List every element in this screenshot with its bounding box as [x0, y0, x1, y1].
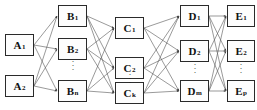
node-label-subscript: 1 [75, 15, 79, 22]
edge-b2-to-ck [87, 49, 114, 93]
node-label-base: A [14, 40, 22, 51]
node-label-base: C [124, 23, 132, 34]
edge-ck-to-d2 [144, 51, 179, 93]
node-ep: Ep [227, 80, 255, 102]
node-label-base: E [235, 11, 243, 22]
node-a1: A1 [5, 34, 34, 56]
edge-a2-to-b2 [34, 49, 57, 86]
edge-a1-to-b2 [34, 45, 57, 49]
node-label-subscript: 2 [22, 85, 26, 92]
edge-bn-to-ck [87, 91, 114, 93]
node-b1: B1 [58, 5, 87, 27]
node-label-subscript: 2 [75, 48, 79, 55]
edge-c2-to-d2 [144, 51, 179, 68]
node-label-base: B [67, 11, 75, 22]
edge-a2-to-b1 [34, 16, 57, 86]
edge-ck-to-dm [144, 91, 179, 93]
node-label-subscript: 1 [197, 15, 201, 22]
edge-a1-to-b1 [34, 16, 57, 45]
edge-c1-to-d1 [144, 16, 179, 28]
node-label-base: D [187, 86, 195, 97]
ellipsis-dot: · [123, 80, 137, 84]
network-diagram: A1A2B1B2Bn···C1C2Ck···D1D2Dm···E1E2Ep··· [0, 0, 257, 110]
node-e1: E1 [227, 5, 255, 27]
edge-c2-to-dm [144, 68, 179, 91]
node-label-base: C [123, 88, 131, 99]
ellipsis-dot: · [188, 70, 202, 74]
ellipsis-d: ··· [188, 62, 202, 74]
edge-b2-to-c2 [87, 49, 114, 68]
node-c1: C1 [115, 17, 144, 39]
ellipsis-e: ··· [234, 62, 248, 74]
node-label-subscript: 2 [243, 50, 247, 57]
node-label-base: E [235, 86, 243, 97]
edge-a2-to-bn [34, 86, 57, 91]
ellipsis-dot: · [234, 70, 248, 74]
node-label-base: A [14, 81, 22, 92]
node-label-base: E [235, 46, 243, 57]
node-a2: A2 [5, 75, 34, 97]
node-d1: D1 [180, 5, 209, 27]
node-label-subscript: k [132, 92, 136, 99]
node-dm: Dm [180, 80, 209, 102]
node-label-base: D [189, 11, 197, 22]
edge-c1-to-d2 [144, 28, 179, 51]
node-label-subscript: p [243, 90, 247, 97]
node-label-subscript: 1 [243, 15, 247, 22]
edge-c2-to-d1 [144, 16, 179, 68]
node-label-subscript: 2 [197, 50, 201, 57]
ellipsis-b: ··· [66, 59, 80, 71]
node-label-subscript: 1 [22, 44, 26, 51]
node-label-subscript: m [196, 90, 202, 97]
node-label-subscript: 1 [132, 27, 136, 34]
node-bn: Bn [58, 80, 87, 102]
edge-b1-to-c1 [87, 16, 114, 28]
node-label-subscript: n [75, 90, 79, 97]
node-label-base: B [67, 86, 75, 97]
edge-b2-to-c1 [87, 28, 114, 49]
ellipsis-dot: · [66, 67, 80, 71]
ellipsis-c: ··· [123, 72, 137, 84]
node-label-base: B [67, 44, 75, 55]
node-label-base: D [189, 46, 197, 57]
